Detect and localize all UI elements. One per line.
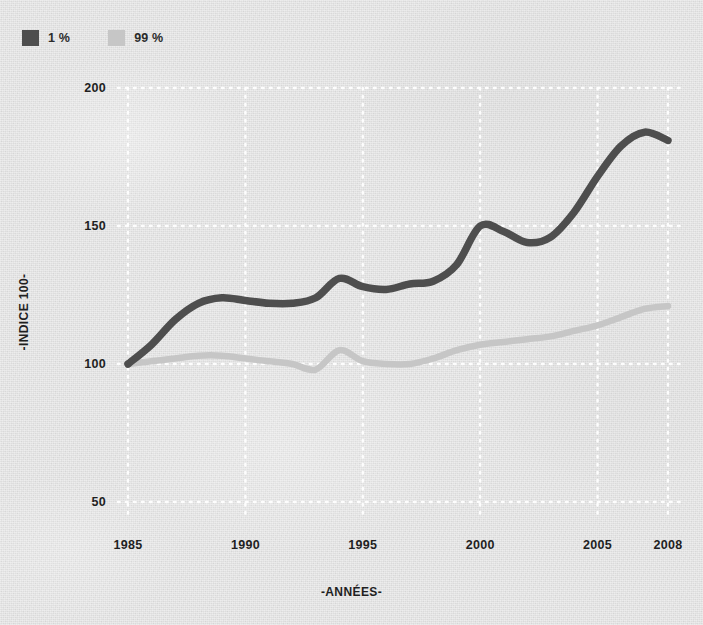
legend-swatch-1pct (22, 30, 39, 46)
x-tick-1990: 1990 (231, 538, 260, 552)
y-tick-200: 200 (84, 81, 106, 95)
x-axis-title: -ANNÉES- (0, 585, 703, 599)
x-tick-1995: 1995 (348, 538, 377, 552)
cropped-title-remnant (0, 0, 703, 2)
series-layer (128, 132, 668, 370)
x-tick-2005: 2005 (583, 538, 612, 552)
y-tick-100: 100 (84, 357, 106, 371)
x-tick-1985: 1985 (113, 538, 142, 552)
legend-swatch-99pct (108, 30, 125, 46)
x-tick-2008: 2008 (653, 538, 682, 552)
series-line-99 (128, 306, 668, 370)
chart-container: 1 % 99 % 50100150200 1985199019952000200… (0, 0, 703, 625)
y-tick-50: 50 (91, 495, 106, 509)
legend-label-99pct: 99 % (134, 31, 163, 45)
legend-item-99pct[interactable]: 99 % (108, 30, 163, 46)
legend-item-1pct[interactable]: 1 % (22, 30, 70, 46)
chart-legend: 1 % 99 % (22, 30, 163, 46)
y-axis-title: -INDICE 100- (17, 274, 31, 351)
y-tick-150: 150 (84, 219, 106, 233)
x-tick-2000: 2000 (466, 538, 495, 552)
legend-label-1pct: 1 % (48, 31, 70, 45)
